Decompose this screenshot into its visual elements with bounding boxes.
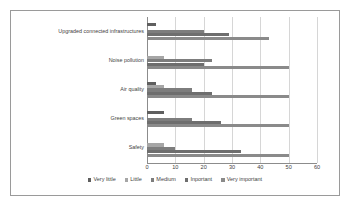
bar-row	[147, 37, 317, 40]
legend-swatch-icon	[221, 178, 225, 182]
x-tick-label: 10	[172, 165, 178, 171]
plot-area	[147, 17, 317, 163]
bar-row	[147, 66, 317, 69]
bar[interactable]	[147, 37, 269, 40]
bar-row	[147, 154, 317, 157]
chart-legend: Very littleLittleMediumInportantVery imp…	[11, 177, 339, 183]
bar-row	[147, 95, 317, 98]
category-label: Safety	[129, 145, 144, 150]
category-axis-labels: Upgraded connected infrastructuresNoise …	[11, 17, 144, 163]
x-tick-label: 60	[314, 165, 320, 171]
category-label: Upgraded connected infrastructures	[58, 29, 144, 34]
legend-item[interactable]: Medium	[151, 177, 176, 183]
chart-frame: Upgraded connected infrastructuresNoise …	[10, 10, 340, 196]
legend-swatch-icon	[185, 178, 189, 182]
legend-item[interactable]: Very little	[88, 177, 116, 183]
x-tick-label: 40	[257, 165, 263, 171]
gridline-60	[317, 17, 318, 163]
x-tick-label: 20	[201, 165, 207, 171]
x-tick-label: 30	[229, 165, 235, 171]
bar[interactable]	[147, 124, 289, 127]
legend-label: Very important	[227, 177, 262, 183]
bar[interactable]	[147, 95, 289, 98]
category-label: Air quality	[120, 87, 144, 92]
bar-group	[147, 17, 317, 46]
bar-group	[147, 75, 317, 104]
x-tick-label: 50	[286, 165, 292, 171]
bar[interactable]	[147, 66, 289, 69]
legend-label: Very little	[93, 177, 115, 183]
category-label: Noise pollution	[109, 58, 144, 63]
legend-label: Medium	[156, 177, 176, 183]
legend-label: Inportant	[190, 177, 212, 183]
bar-group	[147, 105, 317, 134]
legend-item[interactable]: Little	[125, 177, 142, 183]
legend-swatch-icon	[88, 178, 92, 182]
legend-swatch-icon	[125, 178, 129, 182]
category-label: Green spaces	[110, 116, 144, 121]
legend-swatch-icon	[151, 178, 155, 182]
legend-item[interactable]: Very important	[221, 177, 262, 183]
x-tick-label: 0	[145, 165, 148, 171]
legend-item[interactable]: Inportant	[185, 177, 212, 183]
bar-group	[147, 134, 317, 163]
bar-row	[147, 124, 317, 127]
bar[interactable]	[147, 154, 289, 157]
legend-label: Little	[130, 177, 142, 183]
bar-group	[147, 46, 317, 75]
